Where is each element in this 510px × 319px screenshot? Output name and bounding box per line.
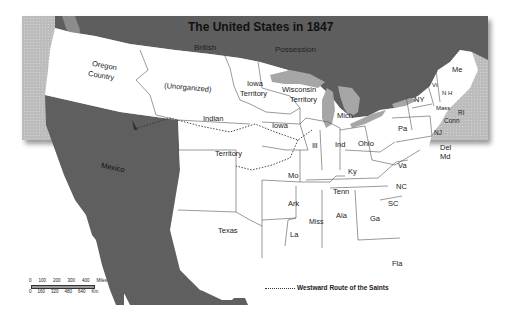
label-iowa: Iowa xyxy=(272,122,288,130)
label-mich: Mich xyxy=(337,112,353,120)
label-va: Va xyxy=(398,162,407,170)
label-indian-territory: Territory xyxy=(215,150,242,158)
route-legend-label: Westward Route of the Saints xyxy=(297,285,389,292)
label-wisconsin: Wisconsin xyxy=(282,86,316,94)
label-ga: Ga xyxy=(370,215,380,223)
label-iowa-territory-1: Iowa xyxy=(247,80,263,88)
map-geography xyxy=(0,0,510,319)
label-me: Me xyxy=(452,66,462,74)
scale-km-4: 640 xyxy=(78,289,86,294)
scale-km-unit: Km xyxy=(92,289,99,294)
scale-mi-4: 400 xyxy=(82,278,90,283)
label-ark: Ark xyxy=(288,200,299,208)
label-sc: SC xyxy=(388,200,398,208)
route-legend: Westward Route of the Saints xyxy=(265,285,389,292)
scale-km-0: 0 xyxy=(29,289,32,294)
label-texas: Texas xyxy=(218,227,238,235)
label-del: Del xyxy=(440,144,451,152)
route-legend-swatch xyxy=(265,288,295,289)
label-iowa-territory-2: Territory xyxy=(240,90,267,98)
scale-bar: 0 100 200 300 400 Miles 0 160 320 480 64… xyxy=(29,278,114,300)
label-conn: Conn xyxy=(444,118,460,125)
label-mo: Mo xyxy=(288,172,298,180)
map: The United States in 1847 British Posses… xyxy=(0,0,510,319)
label-nc: NC xyxy=(396,183,407,191)
label-mass: Mass xyxy=(436,105,450,111)
label-md: Md xyxy=(440,153,450,161)
label-british: British xyxy=(194,44,216,52)
scale-km-row: 0 160 320 480 640 Km xyxy=(29,289,98,294)
scale-mi-0: 0 xyxy=(29,278,32,283)
label-ind: Ind xyxy=(335,141,345,149)
scale-mi-2: 200 xyxy=(53,278,61,283)
label-ri: RI xyxy=(458,110,465,117)
label-miss: Miss xyxy=(309,218,323,225)
label-possession: Possession xyxy=(275,46,316,54)
label-ala: Ala xyxy=(336,212,347,220)
label-la: La xyxy=(290,231,298,239)
label-ill: Ill xyxy=(312,142,317,150)
label-indian: Indian xyxy=(203,115,223,123)
map-title: The United States in 1847 xyxy=(188,20,333,34)
label-nh: N H xyxy=(442,90,452,96)
label-tenn: Tenn xyxy=(333,188,349,196)
label-ohio: Ohio xyxy=(358,140,374,148)
scale-mi-1: 100 xyxy=(39,278,47,283)
label-vt: Vt xyxy=(432,82,438,88)
scale-km-1: 160 xyxy=(38,289,46,294)
label-wisconsin-territory: Territory xyxy=(290,96,317,104)
label-ny: NY xyxy=(414,96,424,104)
scale-km-2: 320 xyxy=(51,289,59,294)
label-pa: Pa xyxy=(398,125,407,133)
scale-miles-row: 0 100 200 300 400 Miles xyxy=(29,278,107,283)
label-nj: NJ xyxy=(434,130,442,137)
label-ky: Ky xyxy=(348,168,357,176)
label-fla: Fla xyxy=(392,260,402,268)
scale-km-3: 480 xyxy=(65,289,73,294)
scale-mi-unit: Miles xyxy=(97,278,108,283)
scale-mi-3: 300 xyxy=(68,278,76,283)
